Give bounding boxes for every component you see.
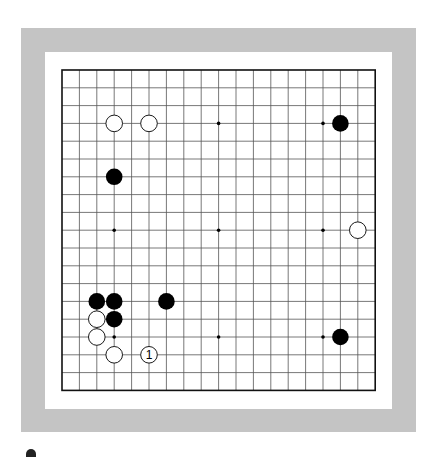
black-stone[interactable] [332,329,349,346]
white-stone[interactable] [89,329,106,346]
black-stone[interactable] [106,169,123,186]
go-board[interactable]: 1 [0,0,442,457]
star-point-icon [217,228,221,232]
black-stone[interactable] [158,293,175,310]
star-point-icon [112,335,116,339]
star-point-icon [217,335,221,339]
star-point-icon [112,228,116,232]
black-stone[interactable] [106,293,123,310]
white-stone[interactable] [89,311,106,328]
white-stone[interactable] [141,115,158,132]
page-mark-icon [26,449,36,457]
white-stone[interactable] [106,347,123,364]
move-number-label: 1 [146,348,153,362]
black-stone[interactable] [332,115,349,132]
white-stone[interactable] [350,222,367,239]
star-point-icon [321,122,325,126]
black-stone[interactable] [89,293,106,310]
star-point-icon [321,335,325,339]
white-stone[interactable] [106,115,123,132]
star-point-icon [321,228,325,232]
black-stone[interactable] [106,311,123,328]
star-point-icon [217,122,221,126]
